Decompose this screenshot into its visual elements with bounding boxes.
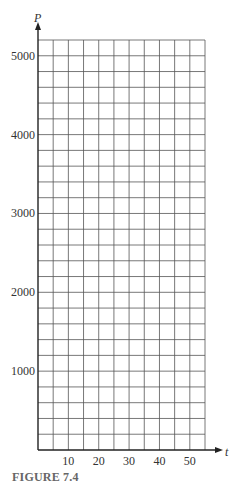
y-tick-label: 3000	[11, 206, 35, 220]
x-tick-label: 50	[184, 454, 196, 468]
grid-lines	[38, 40, 205, 450]
x-axis-label: t	[225, 445, 229, 459]
x-tick-labels: 1020304050	[62, 454, 195, 468]
y-axis-label: P	[33, 11, 42, 25]
x-axis-arrow-icon	[215, 447, 223, 453]
figure-caption: FIGURE 7.4	[12, 470, 79, 485]
y-tick-label: 5000	[11, 49, 35, 63]
y-tick-label: 1000	[11, 364, 35, 378]
y-tick-label: 2000	[11, 285, 35, 299]
x-tick-label: 20	[93, 454, 105, 468]
x-tick-label: 30	[123, 454, 135, 468]
x-tick-label: 40	[153, 454, 165, 468]
y-tick-label: 4000	[11, 128, 35, 142]
chart-grid: 10002000300040005000 1020304050 P t	[0, 0, 238, 470]
x-tick-label: 10	[62, 454, 74, 468]
y-tick-labels: 10002000300040005000	[11, 49, 35, 378]
